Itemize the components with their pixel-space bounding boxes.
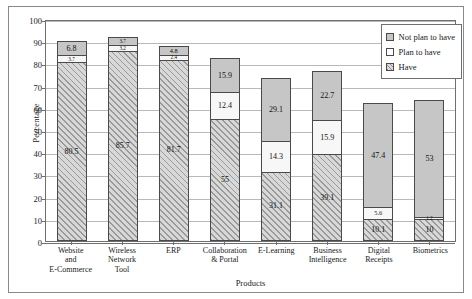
bar-value-label: 15.9	[218, 72, 232, 80]
y-tick-label: 90	[2, 38, 42, 48]
bar-column: 15.912.455	[204, 21, 246, 241]
bar-column: 29.114.331.1	[255, 21, 297, 241]
legend-swatch-have	[386, 63, 394, 71]
x-category-label: BusinessIntelligence	[302, 246, 353, 274]
bar-value-label: 10.1	[371, 226, 385, 234]
x-category-label: WebsiteandE-Commerce	[45, 246, 96, 274]
bar-column: 4.82.481.7	[153, 21, 195, 241]
bar-value-label: 39.1	[320, 194, 334, 202]
bar-segment: 39.1	[312, 154, 342, 241]
x-tick-mark	[173, 241, 174, 245]
y-tick-label: 10	[2, 216, 42, 226]
gridline	[46, 243, 455, 244]
y-tick-mark	[42, 243, 46, 244]
bar-value-label: 53	[425, 155, 433, 163]
y-tick-label: 20	[2, 194, 42, 204]
x-tick-mark	[276, 241, 277, 245]
bar-segment: 10	[414, 219, 444, 241]
bar-segment: 14.3	[261, 141, 291, 173]
bar-segment: 29.1	[261, 78, 291, 143]
stacked-bar: 6.83.780.5	[57, 42, 87, 241]
x-axis-tick-labels: WebsiteandE-CommerceWirelessNetworkToolE…	[45, 246, 456, 274]
bar-segment: 15.9	[312, 120, 342, 155]
bar-column: 6.83.780.5	[51, 21, 93, 241]
y-axis-title: Percentage	[31, 63, 41, 183]
bar-value-label: 14.3	[269, 153, 283, 161]
y-tick-label: 80	[2, 60, 42, 70]
stacked-bar: 3.73.285.7	[108, 38, 138, 241]
bar-segment: 10.1	[363, 219, 393, 241]
bar-value-label: 29.1	[269, 106, 283, 114]
x-tick-mark	[327, 241, 328, 245]
stacked-bar: 15.912.455	[210, 59, 240, 241]
y-tick-label: 40	[2, 149, 42, 159]
stacked-bar: 22.715.939.1	[312, 72, 342, 241]
y-tick-label: 0	[2, 238, 42, 248]
chart-legend: Not plan to havePlan to haveHave	[381, 24, 462, 79]
bar-value-label: 3.7	[119, 39, 125, 44]
stacked-bar: 47.45.610.1	[363, 104, 393, 241]
bar-segment: 31.1	[261, 172, 291, 241]
y-tick-label: 70	[2, 83, 42, 93]
bar-segment: 6.8	[57, 41, 87, 56]
y-tick-label: 50	[2, 127, 42, 137]
bar-column: 22.715.939.1	[306, 21, 348, 241]
y-tick-label: 30	[2, 171, 42, 181]
x-category-label: E-Learning	[251, 246, 302, 274]
bar-value-label: 47.4	[371, 152, 385, 160]
bar-value-label: 10	[425, 226, 433, 234]
bar-segment: 12.4	[210, 92, 240, 120]
bar-value-label: 4.8	[170, 48, 178, 54]
bar-value-label: 85.7	[116, 142, 130, 150]
y-tick-label: 60	[2, 105, 42, 115]
bar-segment: 80.5	[57, 62, 87, 241]
bar-segment: 15.9	[210, 58, 240, 93]
bar-segment: 53	[414, 100, 444, 218]
bar-value-label: 80.5	[65, 148, 79, 156]
bar-segment: 81.7	[159, 60, 189, 241]
x-tick-mark	[71, 241, 72, 245]
stacked-bar: 531.210	[414, 101, 444, 241]
bar-value-label: 15.9	[320, 134, 334, 142]
stacked-bar: 4.82.481.7	[159, 47, 189, 241]
x-tick-mark	[122, 241, 123, 245]
stacked-bar: 29.114.331.1	[261, 79, 291, 241]
bar-value-label: 12.4	[218, 102, 232, 110]
bar-segment: 22.7	[312, 71, 342, 121]
x-category-label: ERP	[148, 246, 199, 274]
legend-label: Have	[399, 62, 417, 72]
legend-item: Have	[386, 59, 455, 74]
chart-figure: Percentage 0102030405060708090100 6.83.7…	[0, 0, 472, 299]
legend-item: Plan to have	[386, 44, 455, 59]
bar-value-label: 3.7	[68, 57, 74, 62]
legend-item: Not plan to have	[386, 29, 455, 44]
bar-value-label: 1.2	[426, 216, 432, 221]
bar-segment: 55	[210, 119, 240, 241]
x-category-label: DigitalReceipts	[353, 246, 404, 274]
legend-swatch-notplan	[386, 33, 394, 41]
bar-value-label: 3.2	[119, 46, 125, 51]
bar-segment: 47.4	[363, 103, 393, 208]
bar-value-label: 5.6	[374, 210, 382, 216]
bar-value-label: 81.7	[167, 146, 181, 154]
bar-value-label: 6.8	[67, 45, 77, 53]
bar-value-label: 2.4	[171, 55, 177, 60]
bar-value-label: 55	[221, 176, 229, 184]
bar-value-label: 22.7	[320, 92, 334, 100]
legend-label: Not plan to have	[399, 32, 455, 42]
legend-swatch-plan	[386, 48, 394, 56]
legend-label: Plan to have	[399, 47, 441, 57]
x-category-label: Collaboration& Portal	[199, 246, 250, 274]
y-tick-label: 100	[2, 16, 42, 26]
x-tick-mark	[378, 241, 379, 245]
x-tick-mark	[224, 241, 225, 245]
x-category-label: WirelessNetworkTool	[96, 246, 147, 274]
bar-segment: 85.7	[108, 51, 138, 241]
bar-column: 3.73.285.7	[102, 21, 144, 241]
x-axis-title: Products	[45, 278, 456, 288]
bar-value-label: 31.1	[269, 202, 283, 210]
x-category-label: Biometrics	[405, 246, 456, 274]
x-tick-mark	[429, 241, 430, 245]
